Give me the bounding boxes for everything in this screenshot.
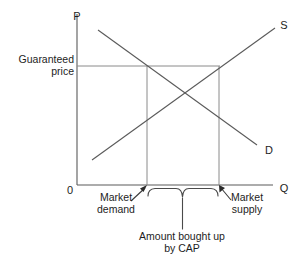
market-demand-label: Market demand	[88, 192, 144, 215]
supply-curve-label: S	[277, 20, 291, 32]
guaranteed-price-label: Guaranteed price	[0, 54, 74, 77]
origin-label: 0	[64, 185, 76, 197]
supply-demand-diagram: Guaranteed price P Q 0 S D Market demand…	[0, 0, 302, 269]
diagram-canvas	[0, 0, 302, 269]
x-axis-label: Q	[276, 183, 292, 195]
amount-bought-up-label: Amount bought up by CAP	[107, 231, 257, 254]
supply-curve	[92, 28, 275, 160]
market-supply-label: Market supply	[219, 192, 275, 215]
demand-curve	[98, 30, 257, 145]
demand-curve-label: D	[262, 145, 276, 157]
y-axis-label: P	[70, 11, 84, 23]
amount-bought-up-brace	[148, 189, 218, 198]
